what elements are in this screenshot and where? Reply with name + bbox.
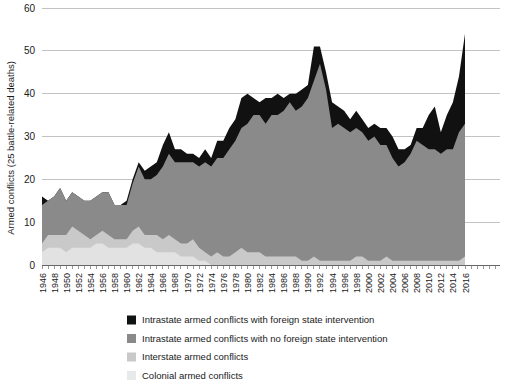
- x-tick-label: 1960: [122, 273, 132, 293]
- x-tick-label: 1972: [195, 273, 205, 293]
- x-tick-label: 1982: [255, 273, 265, 293]
- x-tick-label: 2002: [376, 273, 386, 293]
- chart-legend: Intrastate armed conflicts with foreign …: [127, 314, 388, 381]
- y-axis-ticks: 0102030405060: [24, 3, 36, 271]
- x-tick-label: 2010: [424, 273, 434, 293]
- legend-label: Intrastate armed conflicts with no forei…: [142, 333, 388, 344]
- x-tick-label: 1996: [340, 273, 350, 293]
- y-axis-title: Armed conflicts (25 battle-related death…: [5, 61, 16, 235]
- y-tick-label: 30: [24, 131, 36, 142]
- x-tick-label: 1978: [231, 273, 241, 293]
- armed-conflicts-area-chart: 0102030405060 19461948195019521954195619…: [0, 0, 507, 387]
- x-tick-label: 1988: [291, 273, 301, 293]
- x-tick-label: 2006: [400, 273, 410, 293]
- x-tick-label: 1956: [98, 273, 108, 293]
- y-tick-label: 20: [24, 174, 36, 185]
- x-tick-label: 1970: [183, 273, 193, 293]
- x-tick-label: 1980: [243, 273, 253, 293]
- x-tick-label: 2008: [412, 273, 422, 293]
- stacked-area-series: [42, 34, 465, 265]
- x-tick-label: 2000: [364, 273, 374, 293]
- x-tick-label: 1968: [170, 273, 180, 293]
- legend-label: Colonial armed conflicts: [142, 370, 243, 381]
- x-tick-label: 2004: [388, 273, 398, 293]
- y-tick-label: 40: [24, 88, 36, 99]
- x-tick-label: 1998: [352, 273, 362, 293]
- legend-swatch: [127, 371, 136, 380]
- x-tick-label: 1966: [158, 273, 168, 293]
- x-tick-label: 1976: [219, 273, 229, 293]
- legend-label: Intrastate armed conflicts with foreign …: [142, 314, 374, 325]
- x-tick-label: 1992: [315, 273, 325, 293]
- legend-swatch: [127, 334, 136, 343]
- x-tick-label: 2016: [461, 273, 471, 293]
- x-tick-label: 1974: [207, 273, 217, 293]
- x-tick-label: 2012: [436, 273, 446, 293]
- x-tick-label: 1984: [267, 273, 277, 293]
- legend-swatch: [127, 353, 136, 362]
- x-tick-label: 1994: [328, 273, 338, 293]
- x-tick-label: 1964: [146, 273, 156, 293]
- x-tick-label: 1962: [134, 273, 144, 293]
- x-tick-label: 1946: [38, 273, 48, 293]
- x-axis-ticks: 1946194819501952195419561958196019621964…: [38, 265, 496, 293]
- y-tick-label: 0: [29, 260, 35, 271]
- x-tick-label: 1958: [110, 273, 120, 293]
- legend-swatch: [127, 316, 136, 325]
- x-tick-label: 1952: [74, 273, 84, 293]
- x-tick-label: 1990: [303, 273, 313, 293]
- legend-label: Interstate armed conflicts: [142, 351, 248, 362]
- y-tick-label: 10: [24, 217, 36, 228]
- y-tick-label: 60: [24, 3, 36, 14]
- x-tick-label: 2014: [448, 273, 458, 293]
- x-tick-label: 1950: [62, 273, 72, 293]
- x-tick-label: 1986: [279, 273, 289, 293]
- x-tick-label: 1954: [86, 273, 96, 293]
- y-tick-label: 50: [24, 45, 36, 56]
- x-tick-label: 1948: [50, 273, 60, 293]
